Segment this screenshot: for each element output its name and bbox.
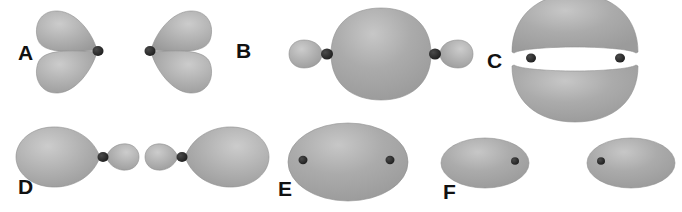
panel-label-c: C [487, 50, 502, 71]
panel-label-e: E [278, 178, 292, 199]
orbital-lobe-small [106, 144, 139, 170]
orbital-lobe-top [512, 0, 638, 53]
orbital-lobe-bottom [512, 65, 638, 122]
orbital-lobe [289, 40, 322, 68]
nucleus-dot [321, 49, 333, 60]
orbital-lobe [440, 40, 473, 68]
nucleus-dot [98, 152, 109, 162]
panel-d-orbitals [16, 127, 269, 187]
panel-label-b: B [236, 40, 251, 61]
nucleus-dot [177, 152, 188, 162]
orbital-lobe [36, 11, 97, 51]
orbital-overlap-figure: A B C D E F [0, 0, 682, 212]
nucleus-dot [526, 53, 536, 62]
orbital-a-left [36, 11, 103, 93]
orbital-lobe [151, 51, 212, 93]
orbital-lobe-central [331, 8, 431, 100]
nucleus-dot [597, 157, 605, 165]
panel-b-orbitals [289, 8, 473, 100]
panel-label-f: F [443, 181, 456, 202]
panel-c-orbitals [512, 0, 638, 122]
orbital-lobe [36, 51, 97, 93]
nucleus-dot [386, 156, 395, 164]
orbital-lobe [151, 11, 212, 51]
nucleus-dot [511, 157, 519, 165]
panel-label-a: A [18, 42, 33, 63]
orbital-lobe-small [145, 144, 178, 170]
panel-f-orbitals [441, 138, 675, 188]
nucleus-dot [615, 53, 625, 62]
nucleus-dot [429, 49, 441, 60]
panel-a-orbitals [36, 11, 211, 93]
nucleus-dot [145, 46, 156, 56]
panel-e-orbitals [288, 123, 408, 201]
orbital-lobe-large [185, 127, 269, 187]
orbital-diagram-canvas [0, 0, 682, 212]
orbital-d-right [145, 127, 269, 187]
nucleus-dot [93, 46, 104, 56]
panel-label-d: D [18, 176, 33, 197]
nucleus-dot [299, 156, 308, 164]
orbital-d-left [16, 127, 139, 187]
orbital-a-right [145, 11, 212, 93]
